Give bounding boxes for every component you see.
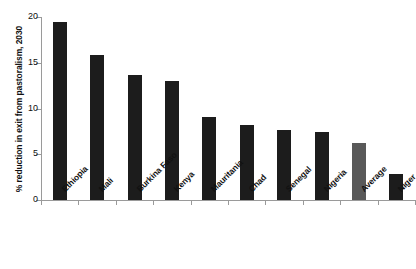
x-axis-tick-mark — [78, 200, 79, 205]
x-axis-tick-mark — [378, 200, 379, 205]
bar — [90, 55, 104, 200]
x-axis-tick-mark — [116, 200, 117, 205]
x-axis-tick-mark — [153, 200, 154, 205]
y-axis-line — [41, 17, 42, 200]
x-axis-tick-mark — [41, 200, 42, 205]
y-axis-tick-label: 20 — [28, 11, 38, 22]
x-axis-tick-mark — [191, 200, 192, 205]
x-axis-tick-mark — [303, 200, 304, 205]
x-axis-tick-mark — [340, 200, 341, 205]
y-axis-tick-label: 0 — [33, 194, 38, 205]
x-axis-tick-mark — [265, 200, 266, 205]
y-axis-tick-label: 5 — [33, 148, 38, 159]
bar-chart: % reduction in exit from pastoralism, 20… — [0, 0, 416, 269]
y-axis-tick-label: 10 — [28, 103, 38, 114]
x-axis-tick-mark — [228, 200, 229, 205]
y-axis-tick-label: 15 — [28, 57, 38, 68]
bar — [53, 22, 67, 200]
y-axis-title: % reduction in exit from pastoralism, 20… — [14, 4, 24, 214]
